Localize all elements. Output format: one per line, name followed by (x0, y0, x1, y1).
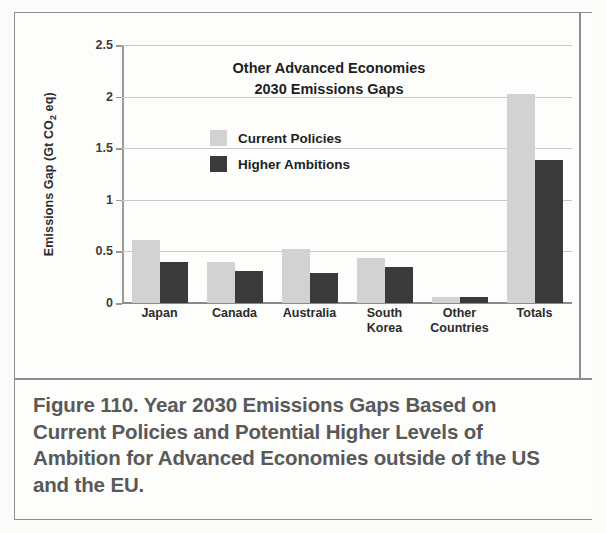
y-axis-tick-label: 0 (106, 296, 113, 310)
x-axis-label: Totals (497, 306, 572, 336)
bar (132, 240, 160, 303)
x-axis-label: Japan (122, 306, 197, 336)
bar-chart: Emissions Gap (Gt CO2 eq) 00.511.522.5 J… (14, 12, 592, 378)
chart-legend: Current PoliciesHigher Ambitions (210, 130, 350, 182)
x-axis-label: Australia (272, 306, 347, 336)
legend-label: Current Policies (238, 131, 342, 146)
bar (160, 262, 188, 303)
x-axis-label: SouthKorea (347, 306, 422, 336)
x-axis-label-line: Canada (197, 306, 272, 321)
bar (282, 249, 310, 303)
y-axis-tick-label: 1.5 (96, 141, 113, 155)
chart-title-line-1: Other Advanced Economies (164, 58, 494, 79)
x-axis-label-line: Korea (347, 321, 422, 336)
bar (357, 258, 385, 303)
bar (535, 160, 563, 303)
x-axis-label-line: Other (422, 306, 497, 321)
figure-caption: Figure 110. Year 2030 Emissions Gaps Bas… (33, 392, 573, 499)
legend-item: Current Policies (210, 130, 350, 146)
legend-swatch (210, 130, 227, 146)
bar-group (497, 45, 572, 303)
y-axis-label-suffix: eq) (42, 92, 56, 115)
figure-page: Emissions Gap (Gt CO2 eq) 00.511.522.5 J… (0, 0, 606, 533)
bar (310, 273, 338, 303)
y-axis-label: Emissions Gap (Gt CO2 eq) (40, 45, 60, 303)
bar (432, 297, 460, 303)
x-axis-label: OtherCountries (422, 306, 497, 336)
y-axis-tick-label: 2.5 (96, 38, 113, 52)
x-axis-label-line: Japan (122, 306, 197, 321)
x-axis-labels: JapanCanadaAustraliaSouthKoreaOtherCount… (122, 306, 572, 336)
x-axis-label-line: South (347, 306, 422, 321)
bar (460, 297, 488, 303)
y-axis-tick-label: 0.5 (96, 244, 113, 258)
legend-label: Higher Ambitions (238, 157, 350, 172)
y-axis-tick-label: 2 (106, 90, 113, 104)
x-axis-label: Canada (197, 306, 272, 336)
x-axis-label-line: Countries (422, 321, 497, 336)
x-axis-label-line: Totals (497, 306, 572, 321)
bar (385, 267, 413, 303)
chart-caption-divider (15, 378, 592, 380)
chart-title: Other Advanced Economies 2030 Emissions … (164, 58, 494, 100)
bar (235, 271, 263, 303)
bar (507, 94, 535, 303)
y-axis-tick (116, 303, 122, 305)
legend-item: Higher Ambitions (210, 156, 350, 172)
chart-title-line-2: 2030 Emissions Gaps (164, 79, 494, 100)
y-axis-label-subscript: 2 (48, 115, 58, 120)
bar (207, 262, 235, 303)
x-axis-label-line: Australia (272, 306, 347, 321)
legend-swatch (210, 156, 227, 172)
y-axis-label-prefix: Emissions Gap (Gt CO (42, 120, 56, 256)
y-axis-tick-label: 1 (106, 193, 113, 207)
